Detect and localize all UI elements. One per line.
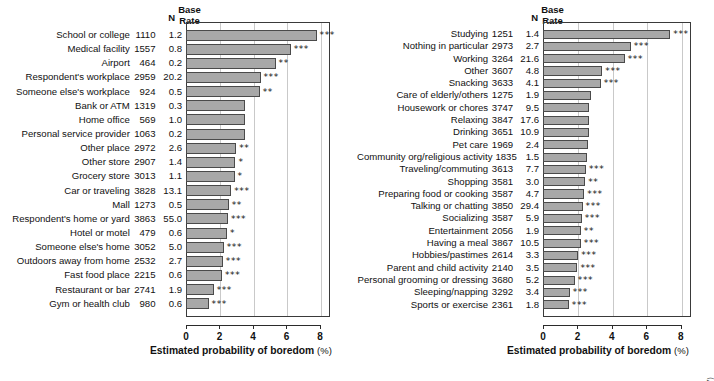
row-bar-cell [543, 89, 714, 101]
bar [543, 103, 589, 112]
bar [186, 256, 223, 267]
chart-row: Other36074.8*** [357, 65, 714, 77]
bar [543, 263, 577, 272]
bar [186, 171, 235, 182]
chart-row: Personal grooming or dressing36805.2*** [357, 274, 714, 286]
significance-marker: *** [628, 53, 643, 65]
row-sample-size: 3847 [491, 114, 516, 126]
column-header-base-rate: Base Rate [175, 4, 204, 28]
row-base-rate: 1.4 [516, 28, 543, 40]
significance-marker: *** [264, 70, 279, 84]
significance-marker: *** [578, 274, 593, 286]
row-sample-size: 2972 [133, 141, 159, 155]
row-base-rate: 0.3 [158, 99, 186, 113]
significance-marker: *** [584, 237, 599, 249]
row-sample-size: 2907 [133, 155, 159, 169]
row-sample-size: 3587 [491, 212, 516, 224]
bar [543, 30, 670, 39]
row-bar-cell: *** [543, 274, 714, 286]
axis-tick-label: 0 [177, 331, 195, 342]
row-label: School or college [0, 28, 133, 42]
row-label: Mall [0, 198, 133, 212]
significance-marker: *** [589, 163, 604, 175]
bar [543, 251, 578, 260]
row-sample-size: 2215 [133, 268, 159, 282]
significance-marker: *** [585, 212, 600, 224]
row-sample-size: 3747 [491, 102, 516, 114]
row-sample-size: 3607 [491, 65, 516, 77]
row-base-rate: 1.9 [158, 283, 186, 297]
chart-row: Hotel or motel4790.6* [0, 226, 357, 240]
row-label: Studying [357, 28, 491, 40]
row-base-rate: 3.5 [516, 262, 543, 274]
row-sample-size: 3013 [133, 169, 159, 183]
row-base-rate: 9.5 [516, 102, 543, 114]
row-base-rate: 1.1 [158, 169, 186, 183]
row-label: Other place [0, 141, 133, 155]
bar [543, 91, 591, 100]
row-label: Sports or exercise [357, 299, 491, 311]
chart-row: Grocery store30131.1* [0, 169, 357, 183]
bar [543, 165, 586, 174]
chart-row: Studying12511.4*** [357, 28, 714, 40]
row-bar-cell [186, 99, 357, 113]
row-bar-cell: *** [186, 254, 357, 268]
row-label: Drinking [357, 126, 491, 138]
chart-row: Other store29071.4* [0, 155, 357, 169]
row-bar-cell: *** [186, 297, 357, 311]
row-bar-cell [543, 151, 714, 163]
row-bar-cell: *** [543, 286, 714, 298]
row-base-rate: 20.2 [158, 70, 186, 84]
row-sample-size: 1969 [491, 139, 516, 151]
chart-row: Mall12730.5** [0, 198, 357, 212]
row-base-rate: 7.7 [516, 163, 543, 175]
row-label: Grocery store [0, 169, 133, 183]
bar [186, 114, 245, 125]
bar [186, 44, 291, 55]
row-label: Personal service provider [0, 127, 133, 141]
chart-row: Medical facility15570.8*** [0, 42, 357, 56]
chart-row: Community org/religious activity18351.5 [357, 151, 714, 163]
row-sample-size: 3867 [491, 237, 516, 249]
significance-marker: * [238, 155, 243, 169]
row-bar-cell: *** [186, 240, 357, 254]
row-base-rate: 1.2 [158, 28, 186, 42]
row-bar-cell [186, 113, 357, 127]
axis-tick [681, 325, 682, 329]
axis-tick [577, 325, 578, 329]
row-label: Sleeping/napping [357, 286, 491, 298]
bar [186, 284, 214, 295]
row-base-rate: 1.8 [516, 299, 543, 311]
row-bar-cell: ** [186, 56, 357, 70]
chart-row: Preparing food or cooking35874.7*** [357, 188, 714, 200]
significance-marker: *** [225, 268, 240, 282]
row-sample-size: 1275 [491, 89, 516, 101]
significance-marker: *** [226, 254, 241, 268]
row-bar-cell: *** [543, 65, 714, 77]
significance-marker: ** [263, 85, 273, 99]
chart-row: Care of elderly/others12751.9 [357, 89, 714, 101]
chart-row: Fast food place22150.6*** [0, 268, 357, 282]
row-label: Hotel or motel [0, 226, 133, 240]
bar [543, 226, 581, 235]
significance-marker: *** [604, 77, 619, 89]
significance-marker: *** [587, 188, 602, 200]
bar [543, 214, 582, 223]
row-base-rate: 0.5 [158, 198, 186, 212]
chart-row: Bank or ATM13190.3 [0, 99, 357, 113]
row-sample-size: 2614 [491, 249, 516, 261]
row-base-rate: 2.7 [158, 254, 186, 268]
row-bar-cell: *** [543, 163, 714, 175]
bar [543, 177, 585, 186]
chart-row: Gym or health club9800.6*** [0, 297, 357, 311]
row-sample-size: 3863 [133, 212, 159, 226]
chart-row: Entertainment20561.9** [357, 225, 714, 237]
base-rate-line2: Rate [179, 15, 200, 26]
bar [186, 157, 235, 168]
row-label: Restaurant or bar [0, 283, 133, 297]
axis-tick-label: 2 [210, 331, 228, 342]
row-base-rate: 0.6 [158, 297, 186, 311]
row-base-rate: 0.6 [158, 226, 186, 240]
row-sample-size: 3680 [491, 274, 516, 286]
chart-row: Car or traveling382813.1*** [0, 184, 357, 198]
